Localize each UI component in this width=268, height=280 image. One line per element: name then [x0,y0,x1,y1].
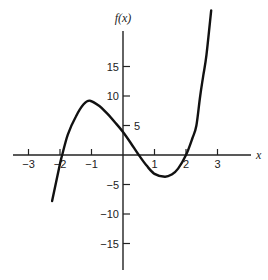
function-graph: −3−2−1123 15105−5−10−15 x f(x) [0,0,268,280]
y-tick-label: −5 [106,179,119,191]
x-tick-label: 1 [151,158,157,170]
y-tick-label: −15 [100,238,119,250]
y-tick-label: 5 [134,120,140,132]
x-axis-label: x [255,148,262,162]
x-tick-label: −3 [22,158,35,170]
function-curve [52,10,211,201]
y-tick-label: −10 [100,208,119,220]
x-ticks: −3−2−1123 [22,149,220,170]
x-tick-label: 3 [214,158,220,170]
x-tick-label: −1 [85,158,98,170]
y-tick-label: 15 [107,61,119,73]
y-tick-label: 10 [107,90,119,102]
y-axis-label: f(x) [115,11,132,25]
